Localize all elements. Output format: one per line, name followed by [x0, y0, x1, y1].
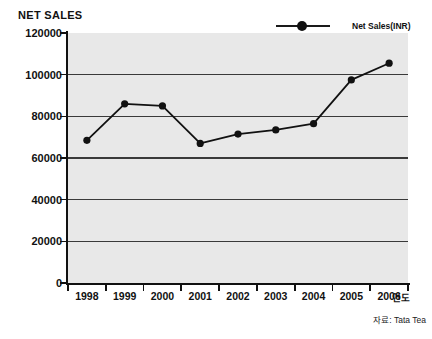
y-axis-tick-label: 0 — [6, 277, 62, 289]
x-axis-tick — [143, 284, 145, 291]
x-axis-tick-label: 1998 — [75, 290, 98, 302]
x-axis-tick — [294, 284, 296, 291]
gridline — [68, 74, 408, 76]
y-axis-line — [66, 31, 68, 285]
net-sales-line-chart: NET SALES Net Sales(INR) 020000400006000… — [0, 0, 432, 339]
gridline — [68, 157, 408, 159]
x-axis-tick-label: 2005 — [340, 290, 363, 302]
x-axis-tick-label: 2006 — [377, 290, 400, 302]
x-axis-tick — [407, 284, 409, 291]
x-axis-tick — [218, 284, 220, 291]
x-axis-tick-label: 1999 — [113, 290, 136, 302]
gridline — [68, 199, 408, 201]
y-axis-tick-label: 80000 — [6, 110, 62, 122]
x-axis-tick-label: 2002 — [226, 290, 249, 302]
x-axis-tick-label: 2000 — [151, 290, 174, 302]
y-axis-ticks: 020000400006000080000100000120000 — [0, 0, 62, 339]
x-axis-tick — [180, 284, 182, 291]
gridline — [68, 241, 408, 243]
x-axis-tick-label: 2001 — [189, 290, 212, 302]
x-axis-line — [66, 283, 410, 285]
x-axis-tick — [369, 284, 371, 291]
x-axis-tick-label: 2003 — [264, 290, 287, 302]
gridline — [68, 116, 408, 118]
chart-legend: Net Sales(INR) — [276, 19, 411, 33]
x-axis-tick-label: 2004 — [302, 290, 325, 302]
y-axis-tick-label: 40000 — [6, 194, 62, 206]
x-axis-tick — [105, 284, 107, 291]
x-axis-tick — [256, 284, 258, 291]
y-axis-tick-label: 20000 — [6, 235, 62, 247]
y-axis-tick-label: 100000 — [6, 69, 62, 81]
legend-dot — [297, 21, 307, 31]
plot-area — [68, 33, 408, 283]
source-note: 자료: Tata Tea — [373, 313, 426, 325]
y-axis-tick-label: 60000 — [6, 152, 62, 164]
legend-label: Net Sales(INR) — [352, 21, 411, 31]
x-axis-tick — [67, 284, 69, 291]
x-axis-tick — [332, 284, 334, 291]
y-axis-tick-label: 120000 — [6, 27, 62, 39]
legend-marker-icon — [276, 20, 330, 32]
